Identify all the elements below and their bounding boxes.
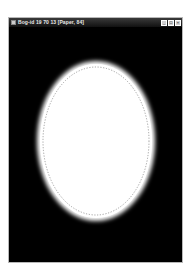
window-controls: _ □ × xyxy=(161,20,181,26)
ellipse-image xyxy=(9,27,182,262)
minimize-button[interactable]: _ xyxy=(161,20,167,26)
maximize-button[interactable]: □ xyxy=(168,20,174,26)
ellipse-fill xyxy=(40,64,152,218)
app-icon xyxy=(11,20,16,25)
close-button[interactable]: × xyxy=(175,20,181,26)
image-canvas[interactable] xyxy=(9,27,182,262)
image-window: Bog-id 19 70 13 [Paper, 84] _ □ × xyxy=(8,17,183,263)
window-title: Bog-id 19 70 13 [Paper, 84] xyxy=(18,18,84,27)
